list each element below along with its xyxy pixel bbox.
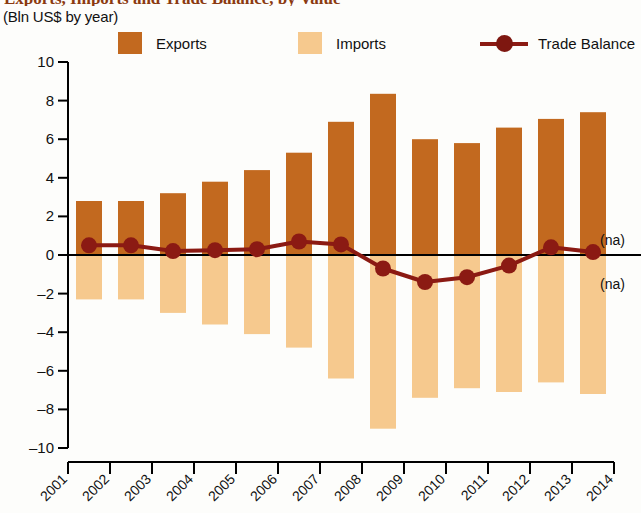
- trade-balance-point: [459, 269, 475, 285]
- trade-balance-point: [165, 243, 181, 259]
- x-tick-label: 2003: [121, 471, 154, 504]
- import-bar: [118, 255, 144, 299]
- export-bar: [496, 128, 522, 255]
- y-tick-label: 0: [46, 246, 54, 263]
- x-tick-label: 2002: [79, 471, 112, 504]
- y-tick-label: 6: [46, 130, 54, 147]
- trade-balance-point: [81, 237, 97, 253]
- y-tick-label: 2: [46, 207, 54, 224]
- chart-root: Exports, Imports and Trade Balance, by V…: [0, 0, 641, 513]
- trade-balance-point: [375, 261, 391, 277]
- trade-balance-point: [249, 241, 265, 257]
- import-bar: [538, 255, 564, 382]
- x-tick-label: 2011: [458, 471, 491, 504]
- import-bar: [160, 255, 186, 313]
- na-label-upper: (na): [600, 232, 625, 248]
- trade-balance-point: [585, 244, 601, 260]
- import-bar: [286, 255, 312, 348]
- y-tick-label: –6: [37, 362, 54, 379]
- y-tick-label: 4: [46, 169, 54, 186]
- x-tick-label: 2009: [373, 471, 406, 504]
- x-tick-label: 2005: [205, 471, 238, 504]
- y-tick-label: 8: [46, 92, 54, 109]
- import-bar: [370, 255, 396, 429]
- export-bar: [538, 119, 564, 255]
- na-label-lower: (na): [600, 276, 625, 292]
- x-tick-label: 2004: [163, 471, 196, 504]
- chart-svg: 1086420–2–4–6–8–102001200220032004200520…: [0, 0, 641, 513]
- import-bar: [244, 255, 270, 334]
- trade-balance-point: [333, 236, 349, 252]
- export-bar: [412, 139, 438, 255]
- trade-balance-point: [291, 234, 307, 250]
- trade-balance-point: [207, 242, 223, 258]
- export-bar: [370, 94, 396, 255]
- import-bar: [76, 255, 102, 299]
- y-tick-label: –2: [37, 285, 54, 302]
- trade-balance-point: [123, 237, 139, 253]
- bars-group: [76, 94, 606, 429]
- y-tick-label: –8: [37, 400, 54, 417]
- import-bar: [202, 255, 228, 325]
- x-tick-label: 2008: [331, 471, 364, 504]
- x-tick-label: 2013: [541, 471, 574, 504]
- y-tick-label: –10: [29, 439, 54, 456]
- x-tick-label: 2010: [415, 471, 448, 504]
- x-tick-label: 2007: [289, 471, 322, 504]
- y-tick-label: 10: [37, 53, 54, 70]
- trade-balance-point: [501, 258, 517, 274]
- chart-plot-area: 1086420–2–4–6–8–102001200220032004200520…: [0, 0, 641, 513]
- x-tick-label: 2006: [247, 471, 280, 504]
- export-bar: [328, 122, 354, 255]
- export-bar: [454, 143, 480, 255]
- y-tick-label: –4: [37, 323, 54, 340]
- import-bar: [328, 255, 354, 379]
- x-tick-label: 2014: [583, 471, 616, 504]
- x-tick-label: 2012: [499, 471, 532, 504]
- trade-balance-point: [543, 239, 559, 255]
- x-tick-label: 2001: [37, 471, 70, 504]
- trade-balance-point: [417, 274, 433, 290]
- import-bar: [496, 255, 522, 392]
